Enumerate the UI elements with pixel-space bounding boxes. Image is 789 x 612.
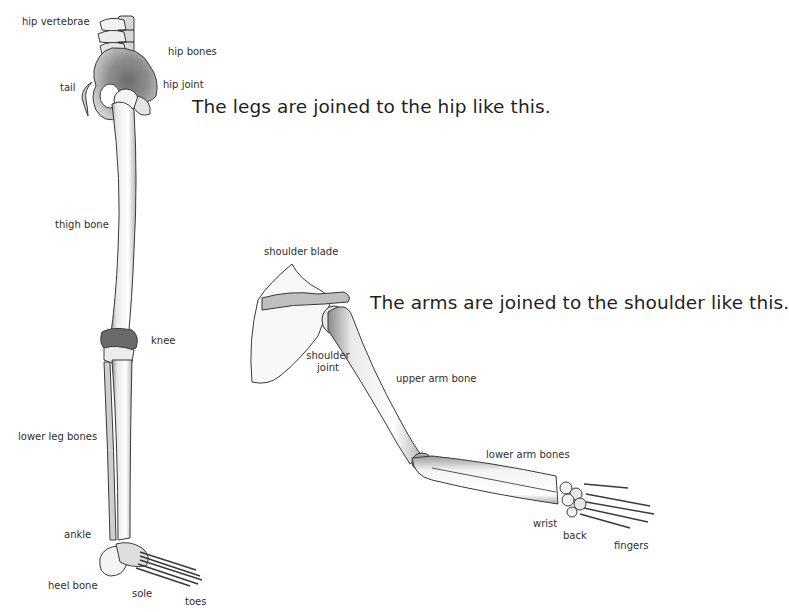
label-upper-arm-bone: upper arm bone <box>396 373 476 385</box>
label-knee: knee <box>151 335 175 347</box>
thigh-bone <box>110 102 136 340</box>
label-shoulder-joint: shoulder joint <box>306 350 350 374</box>
upper-arm-bone <box>328 307 422 464</box>
label-lower-leg-bones: lower leg bones <box>18 431 97 443</box>
label-wrist: wrist <box>533 518 557 530</box>
finger-bones <box>580 484 654 528</box>
legs-caption: The legs are joined to the hip like this… <box>192 96 551 118</box>
label-hip-bones: hip bones <box>168 46 217 58</box>
label-shoulder-joint-line1: shoulder <box>306 350 350 362</box>
lower-arm-bones <box>412 456 558 504</box>
label-tail: tail <box>60 82 76 94</box>
label-shoulder-blade: shoulder blade <box>264 246 338 258</box>
leg-skeleton <box>82 16 202 586</box>
arms-caption: The arms are joined to the shoulder like… <box>370 292 789 314</box>
label-ankle: ankle <box>64 529 91 541</box>
tail-bone <box>82 82 92 116</box>
label-shoulder-joint-line2: joint <box>306 362 350 374</box>
label-heel-bone: heel bone <box>48 580 98 592</box>
label-sole: sole <box>132 588 152 600</box>
label-thigh-bone: thigh bone <box>55 219 109 231</box>
wrist-bones <box>560 482 586 517</box>
foot-bones <box>100 543 202 586</box>
label-hip-joint: hip joint <box>163 79 204 91</box>
knee-joint <box>101 328 138 363</box>
label-lower-arm-bones: lower arm bones <box>486 449 570 461</box>
label-toes: toes <box>185 596 206 608</box>
label-hip-vertebrae: hip vertebrae <box>22 16 90 28</box>
label-fingers: fingers <box>614 540 648 552</box>
label-back: back <box>563 530 587 542</box>
